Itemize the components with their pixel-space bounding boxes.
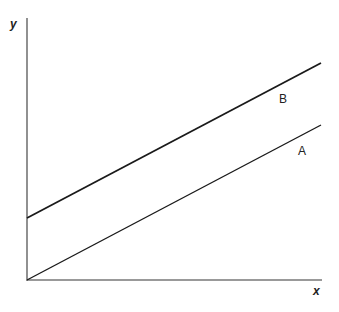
line-b xyxy=(27,63,321,218)
line-a-label: A xyxy=(298,144,306,158)
line-b-label: B xyxy=(279,92,287,106)
y-axis-label: y xyxy=(10,17,17,31)
line-a xyxy=(27,125,321,280)
diagram-canvas xyxy=(0,0,339,312)
x-axis-label: x xyxy=(313,284,320,298)
